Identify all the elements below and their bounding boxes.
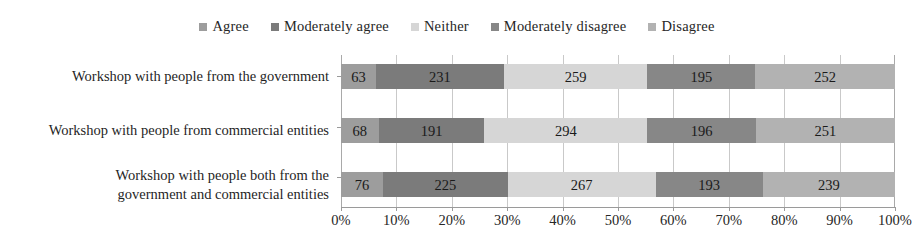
y-axis-tick [337,76,341,77]
bar-segment-value: 196 [691,124,713,139]
bar-segment-value: 231 [429,70,451,85]
x-axis-tick-label: 60% [660,212,687,229]
y-axis-tick [337,127,341,128]
bar-segment-value: 259 [565,70,587,85]
bar-segment-value: 63 [351,70,366,85]
x-axis-tick [784,207,785,211]
bar-segment-value: 193 [698,178,720,193]
category-label-line: Workshop with people from the government [72,67,329,85]
legend-item[interactable]: Moderately agree [271,18,389,35]
bar-segment-value: 76 [355,178,370,193]
bar-row: 68191294196251 [341,118,895,143]
x-axis-tick [396,207,397,211]
x-axis-tick-label: 50% [605,212,632,229]
x-axis-tick [563,207,564,211]
bar-segment-value: 195 [690,70,712,85]
legend-item-label: Neither [424,18,469,35]
x-axis-tick [673,207,674,211]
bar-segment[interactable]: 68 [341,118,379,143]
bar-row: 76225267193239 [341,172,895,197]
bar-segment[interactable]: 251 [756,118,895,143]
bar-series-container: 6323125919525268191294196251762252671932… [341,55,895,207]
category-label-line: Workshop with people both from the [116,166,329,184]
legend-item[interactable]: Neither [411,18,469,35]
category-axis-labels: Workshop with people from the government… [0,55,335,207]
x-axis-tick [341,207,342,211]
x-axis-tick-label: 100% [878,212,912,229]
x-axis-tick [618,207,619,211]
bar-segment-value: 191 [421,124,443,139]
bar-segment[interactable]: 225 [383,172,508,197]
bar-segment[interactable]: 239 [763,172,895,197]
legend-item-label: Agree [212,18,248,35]
bar-segment-value: 68 [353,124,368,139]
category-label: Workshop with people from commercial ent… [0,118,335,143]
bar-segment-value: 251 [815,124,837,139]
bar-row: 63231259195252 [341,64,895,89]
bar-segment[interactable]: 231 [376,64,504,89]
x-axis-tick-label: 20% [439,212,466,229]
bar-segment[interactable]: 76 [341,172,383,197]
bar-segment-value: 225 [435,178,457,193]
legend-swatch-icon [411,23,419,31]
y-axis-tick [337,177,341,178]
bar-segment[interactable]: 191 [379,118,485,143]
bar-segment[interactable]: 252 [755,64,895,89]
legend-item[interactable]: Moderately disagree [491,18,627,35]
category-label-line: government and commercial entities [116,185,329,203]
x-axis-tick-label: 0% [331,212,350,229]
legend-item-label: Moderately disagree [504,18,627,35]
legend-item-label: Moderately agree [284,18,389,35]
bar-segment-value: 294 [555,124,577,139]
x-axis-tick-label: 70% [716,212,743,229]
category-label: Workshop with people both from thegovern… [0,172,335,197]
x-axis-tick [452,207,453,211]
x-axis-tick-label: 30% [494,212,521,229]
bar-segment-value: 267 [571,178,593,193]
x-axis-tick [729,207,730,211]
legend-item[interactable]: Agree [199,18,248,35]
plot-area: 6323125919525268191294196251762252671932… [341,55,895,207]
stacked-bar-chart: AgreeModerately agreeNeitherModerately d… [0,0,914,239]
chart-legend: AgreeModerately agreeNeitherModerately d… [0,18,914,35]
x-axis-tick-label: 80% [771,212,798,229]
bar-segment-value: 239 [818,178,840,193]
legend-swatch-icon [491,23,499,31]
bar-segment[interactable]: 259 [504,64,647,89]
x-axis-tick-label: 40% [549,212,576,229]
legend-item-label: Disagree [661,18,714,35]
x-axis-tick-label: 90% [826,212,853,229]
bar-segment[interactable]: 267 [508,172,656,197]
legend-swatch-icon [648,23,656,31]
x-axis-tick-label: 10% [383,212,410,229]
bar-segment[interactable]: 196 [647,118,756,143]
category-label: Workshop with people from the government [0,64,335,89]
x-axis-tick [507,207,508,211]
bar-segment[interactable]: 193 [656,172,763,197]
legend-swatch-icon [271,23,279,31]
x-axis-tick [895,207,896,211]
bar-segment-value: 252 [814,70,836,85]
category-label-line: Workshop with people from commercial ent… [49,121,329,139]
x-axis-labels: 0%10%20%30%40%50%60%70%80%90%100% [341,212,895,234]
legend-swatch-icon [199,23,207,31]
bar-segment[interactable]: 294 [484,118,647,143]
legend-item[interactable]: Disagree [648,18,714,35]
bar-segment[interactable]: 195 [647,64,755,89]
bar-segment[interactable]: 63 [341,64,376,89]
x-axis-tick [840,207,841,211]
